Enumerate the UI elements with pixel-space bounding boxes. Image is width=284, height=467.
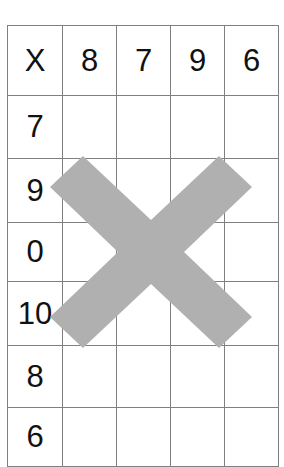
grid-cell-r4c4[interactable] [225, 282, 279, 346]
table-row: 0 [8, 223, 279, 282]
grid-cell-rowlabel-4[interactable]: 10 [8, 282, 63, 346]
grid-cell-r5c3[interactable] [171, 346, 225, 408]
grid-cell-r6c3[interactable] [171, 408, 225, 467]
grid-cell-rowlabel-3[interactable]: 0 [8, 223, 63, 282]
grid-cell-r3c4[interactable] [225, 223, 279, 282]
grid-cell-r4c2[interactable] [117, 282, 171, 346]
table-row: X 8 7 9 6 [8, 26, 279, 96]
grid-cell-rowlabel-6[interactable]: 6 [8, 408, 63, 467]
grid-cell-r1c1[interactable] [63, 96, 117, 159]
table-row: 10 [8, 282, 279, 346]
grid-cell-r5c1[interactable] [63, 346, 117, 408]
grid-cell-r6c4[interactable] [225, 408, 279, 467]
grid-cell-header-operator[interactable]: X [8, 26, 63, 96]
grid-cell-r3c2[interactable] [117, 223, 171, 282]
grid-cell-r6c1[interactable] [63, 408, 117, 467]
grid-cell-rowlabel-1[interactable]: 7 [8, 96, 63, 159]
grid-cell-header-3[interactable]: 9 [171, 26, 225, 96]
grid-cell-r6c2[interactable] [117, 408, 171, 467]
grid-cell-r5c4[interactable] [225, 346, 279, 408]
grid-cell-r4c1[interactable] [63, 282, 117, 346]
grid-cell-rowlabel-5[interactable]: 8 [8, 346, 63, 408]
table-row: 8 [8, 346, 279, 408]
grid-cell-r3c1[interactable] [63, 223, 117, 282]
table-row: 9 [8, 159, 279, 223]
grid-cell-header-4[interactable]: 6 [225, 26, 279, 96]
table-row: 7 [8, 96, 279, 159]
grid-cell-r2c4[interactable] [225, 159, 279, 223]
grid-cell-r1c4[interactable] [225, 96, 279, 159]
grid-cell-r3c3[interactable] [171, 223, 225, 282]
grid-cell-rowlabel-2[interactable]: 9 [8, 159, 63, 223]
grid-cell-r1c2[interactable] [117, 96, 171, 159]
grid-cell-header-1[interactable]: 8 [63, 26, 117, 96]
table-row: 6 [8, 408, 279, 467]
grid-cell-r5c2[interactable] [117, 346, 171, 408]
grid-cell-header-2[interactable]: 7 [117, 26, 171, 96]
grid-cell-r4c3[interactable] [171, 282, 225, 346]
grid-cell-r2c1[interactable] [63, 159, 117, 223]
multiplication-grid: X 8 7 9 6 7 9 0 [7, 25, 279, 467]
grid-cell-r1c3[interactable] [171, 96, 225, 159]
grid-cell-r2c2[interactable] [117, 159, 171, 223]
grid-cell-r2c3[interactable] [171, 159, 225, 223]
